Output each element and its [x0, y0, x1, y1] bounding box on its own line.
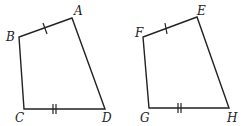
vertex-label-h: H	[226, 111, 238, 125]
quadrilaterals-diagram: A B C D E F G H	[0, 0, 245, 126]
vertex-label-a: A	[73, 4, 83, 18]
vertex-label-c: C	[15, 111, 24, 125]
quadrilateral-efgh	[143, 17, 229, 108]
vertex-label-e: E	[196, 4, 206, 18]
diagram-canvas: A B C D E F G H	[0, 0, 245, 126]
vertex-label-b: B	[5, 30, 15, 44]
quadrilateral-abcd	[19, 18, 105, 109]
vertex-label-d: D	[101, 111, 112, 125]
vertex-label-g: G	[140, 111, 150, 125]
vertex-label-f: F	[134, 26, 144, 40]
